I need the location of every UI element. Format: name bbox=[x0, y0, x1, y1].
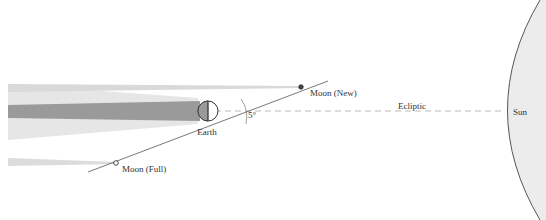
ecliptic-label: Ecliptic bbox=[398, 101, 426, 111]
sun-label: Sun bbox=[513, 107, 528, 117]
moon-new-shadow bbox=[8, 84, 301, 92]
moon-new bbox=[299, 85, 304, 90]
angle-label: 5° bbox=[248, 110, 257, 120]
moon-full-label: Moon (Full) bbox=[122, 164, 166, 174]
moon-full bbox=[114, 161, 119, 166]
earth-label: Earth bbox=[197, 127, 217, 137]
moon-full-shadow bbox=[8, 158, 116, 166]
moon-new-label: Moon (New) bbox=[310, 88, 357, 98]
eclipse-geometry-diagram: Moon (New) Moon (Full) Earth Ecliptic Su… bbox=[0, 0, 546, 220]
